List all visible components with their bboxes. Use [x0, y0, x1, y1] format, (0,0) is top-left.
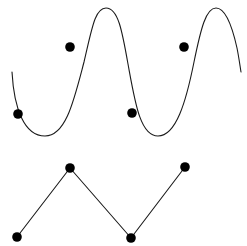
curve-point-2-marker: [65, 42, 75, 52]
figure-canvas: [0, 0, 247, 246]
polyline-vertex-2-marker: [65, 163, 75, 173]
curve-point-4-marker: [179, 42, 189, 52]
curve-point-1-marker: [13, 109, 23, 119]
figure-svg: [0, 0, 247, 246]
figure-background: [0, 0, 247, 246]
polyline-vertex-4-marker: [180, 162, 190, 172]
curve-point-3-marker: [127, 108, 137, 118]
polyline-vertex-3-marker: [126, 233, 136, 243]
polyline-vertex-1-marker: [12, 232, 22, 242]
